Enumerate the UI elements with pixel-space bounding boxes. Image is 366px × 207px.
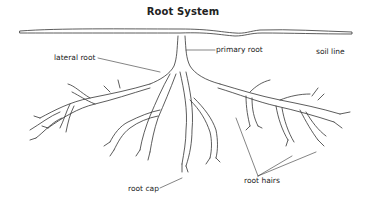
- soil-line-label: soil line: [316, 47, 345, 56]
- soil-line-shape: [20, 29, 352, 36]
- primary-root-label: primary root: [216, 45, 263, 54]
- root-hairs-label: root hairs: [244, 176, 280, 185]
- primary-root-shape: [150, 36, 220, 84]
- root-cap-label: root cap: [128, 184, 159, 193]
- root-system-illustration: [0, 0, 366, 207]
- lateral-root-label: lateral root: [54, 53, 95, 62]
